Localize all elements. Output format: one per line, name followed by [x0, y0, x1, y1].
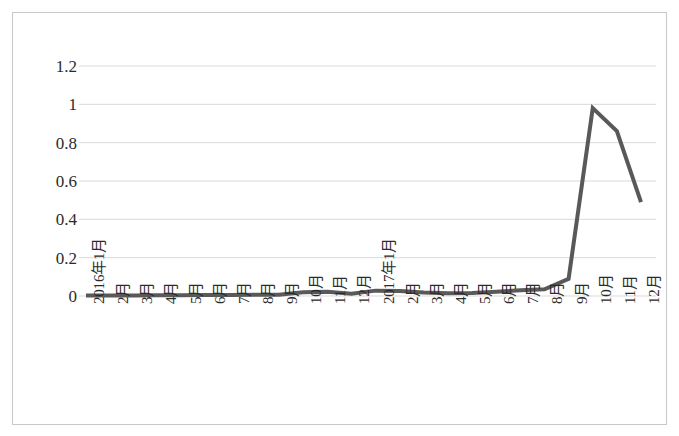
x-tick-label: 3月 — [430, 282, 445, 304]
x-tick-label: 11月 — [333, 275, 348, 304]
x-tick-label: 6月 — [213, 282, 228, 304]
x-tick-label: 2月 — [116, 282, 131, 304]
x-tick-label: 5月 — [478, 282, 493, 304]
x-tick-label: 4月 — [164, 282, 179, 304]
x-tick-label: 6月 — [502, 282, 517, 304]
x-tick-label: 10月 — [599, 275, 614, 304]
x-tick-label: 2月 — [406, 282, 421, 304]
x-tick-label: 11月 — [623, 275, 638, 304]
x-tick-label: 3月 — [140, 282, 155, 304]
x-tick-label: 12月 — [647, 275, 662, 304]
x-tick-label: 9月 — [285, 282, 300, 304]
x-tick-label: 12月 — [357, 275, 372, 304]
chart-frame: 00.20.40.60.811.2 2016年1月2月3月4月5月6月7月8月9… — [12, 12, 667, 425]
x-tick-label: 2016年1月 — [92, 238, 107, 304]
x-tick-label: 4月 — [454, 282, 469, 304]
x-axis-tick-labels: 2016年1月2月3月4月5月6月7月8月9月10月11月12月2017年1月2… — [13, 13, 668, 426]
x-tick-label: 2017年1月 — [382, 238, 397, 304]
x-tick-label: 5月 — [189, 282, 204, 304]
x-tick-label: 9月 — [575, 282, 590, 304]
plot-region: 00.20.40.60.811.2 2016年1月2月3月4月5月6月7月8月9… — [13, 13, 668, 426]
x-tick-label: 8月 — [550, 282, 565, 304]
x-tick-label: 7月 — [237, 282, 252, 304]
x-tick-label: 7月 — [526, 282, 541, 304]
x-tick-label: 10月 — [309, 275, 324, 304]
x-tick-label: 8月 — [261, 282, 276, 304]
